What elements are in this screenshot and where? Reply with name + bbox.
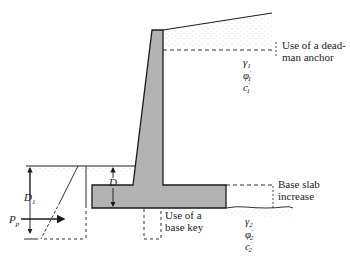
foundation-ground-line [226,207,293,208]
backfill-soil [163,13,272,48]
deadman-label-line1: Use of a dead- [282,39,346,51]
pp-label: Pp [8,213,20,228]
gamma1: γ1 [243,56,251,70]
c1: c′1 [243,81,250,95]
base-key-outline [144,209,161,239]
d-label: D [108,176,117,188]
front-soil [26,167,134,173]
base-slab-label-line2: increase [278,190,314,202]
base-key-label-line1: Use of a [165,209,202,221]
d1-label: D1 [23,191,35,206]
base-slab-label-line1: Base slab [278,178,320,190]
foundation-soil [226,209,292,217]
deadman-label-line2: man anchor [282,51,334,63]
base-key-label-line2: base key [165,221,204,233]
c2: c′2 [245,240,252,254]
passive-wedge-dashed [41,202,60,239]
gamma2: γ2 [245,215,253,229]
retaining-wall-diagram: Use of a dead- man anchor γ1 φ′1 c′1 Bas… [0,0,350,266]
